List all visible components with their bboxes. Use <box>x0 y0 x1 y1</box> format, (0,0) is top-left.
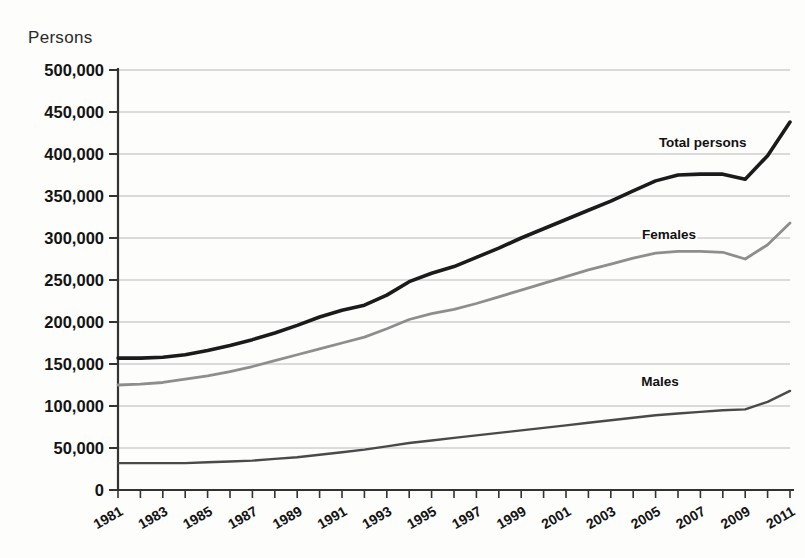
y-tick-label: 450,000 <box>44 103 104 121</box>
x-tick-label: 2003 <box>583 503 618 533</box>
y-tick-label: 50,000 <box>54 439 104 457</box>
y-tick-label: 0 <box>95 481 104 499</box>
line-chart: 500,000450,000400,000350,000300,000250,0… <box>0 0 805 558</box>
x-tick-label: 1981 <box>91 503 126 533</box>
x-tick-label: 1993 <box>359 503 394 533</box>
series-label-total-persons: Total persons <box>659 135 747 150</box>
x-tick-label: 1997 <box>449 503 484 533</box>
series-line-males <box>118 391 790 463</box>
x-tick-label: 1989 <box>270 503 305 533</box>
series-label-males: Males <box>641 374 679 389</box>
x-tick-label: 1991 <box>315 503 350 533</box>
chart-container: Persons 500,000450,000400,000350,000300,… <box>0 0 805 558</box>
y-tick-label: 300,000 <box>44 229 104 247</box>
y-tick-label: 100,000 <box>44 397 104 415</box>
x-tick-label: 1987 <box>225 503 260 533</box>
series-label-females: Females <box>642 227 696 242</box>
y-tick-label: 200,000 <box>44 313 104 331</box>
x-tick-label: 1999 <box>494 503 529 533</box>
x-tick-label: 2011 <box>763 503 797 532</box>
x-tick-label: 2009 <box>718 503 753 533</box>
x-tick-label: 2001 <box>539 503 574 533</box>
y-tick-label: 350,000 <box>44 187 104 205</box>
y-tick-label: 500,000 <box>44 61 104 79</box>
x-tick-label: 1995 <box>404 503 439 533</box>
y-tick-label: 150,000 <box>44 355 104 373</box>
x-tick-label: 1983 <box>135 503 170 533</box>
x-tick-label: 2007 <box>673 503 708 533</box>
y-tick-label: 400,000 <box>44 145 104 163</box>
x-tick-label: 2005 <box>628 503 663 533</box>
series-line-females <box>118 223 790 385</box>
x-tick-label: 1985 <box>180 503 215 533</box>
y-tick-label: 250,000 <box>44 271 104 289</box>
